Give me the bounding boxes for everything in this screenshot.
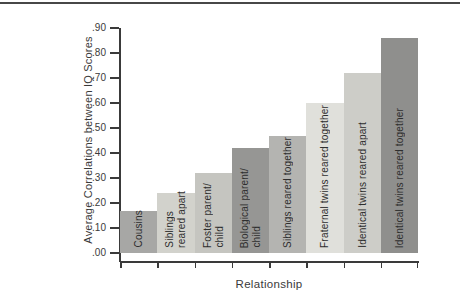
x-tick	[417, 261, 419, 268]
bar-label: Fraternal twins reared together	[306, 105, 343, 248]
iq-correlation-bar-chart: Average Correlations between IQ Scores .…	[0, 0, 460, 301]
x-tick	[232, 261, 234, 268]
y-tick	[110, 52, 119, 54]
bar-6: Fraternal twins reared together	[306, 103, 343, 253]
bar-label-line: Siblings	[164, 211, 175, 248]
y-tick-label: .10	[66, 222, 106, 234]
bar-label-line: Identical twins reared apart	[357, 122, 368, 248]
y-tick-label: .40	[66, 147, 106, 159]
bar-label: Foster parent/child	[195, 183, 232, 248]
y-tick	[110, 77, 119, 79]
x-tick	[381, 261, 383, 268]
y-tick-label: .50	[66, 122, 106, 134]
bar-label-line: Fraternal twins reared together	[319, 105, 330, 248]
y-tick-label: .90	[66, 22, 106, 34]
bar-label-line: Identical twins reared together	[394, 108, 405, 248]
x-axis-ticks	[120, 261, 418, 268]
bar-label-line: reared apart	[176, 191, 187, 248]
plot-area: CousinsSiblingsreared apartFoster parent…	[120, 28, 418, 253]
bar-1: Cousins	[120, 211, 157, 254]
y-axis-ticks: .00.10.20.30.40.50.60.70.80.90	[0, 28, 120, 253]
y-tick	[110, 177, 119, 179]
y-tick	[110, 127, 119, 129]
y-tick	[110, 152, 119, 154]
y-tick	[110, 252, 119, 254]
bar-7: Identical twins reared apart	[344, 73, 381, 253]
bar-label-line: Foster parent/	[202, 183, 213, 248]
bar-label-line: Cousins	[133, 210, 144, 248]
x-tick	[157, 261, 159, 268]
bar-label-line: Biological parent/	[239, 168, 250, 248]
bar-label: Siblings reared together	[269, 137, 306, 248]
bar-8: Identical twins reared together	[381, 38, 418, 253]
bar-label-line: child	[214, 226, 225, 248]
y-tick-label: .60	[66, 97, 106, 109]
bar-label: Cousins	[120, 210, 157, 248]
bar-label: Siblingsreared apart	[157, 191, 194, 248]
x-tick	[306, 261, 308, 268]
bar-3: Foster parent/child	[195, 173, 232, 253]
x-tick	[195, 261, 197, 268]
y-tick	[110, 227, 119, 229]
y-tick-label: .20	[66, 197, 106, 209]
y-tick	[110, 27, 119, 29]
bar-label: Identical twins reared together	[381, 108, 418, 248]
y-tick-label: .80	[66, 47, 106, 59]
bar-label-line: Siblings reared together	[282, 137, 293, 248]
bar-4: Biological parent/child	[232, 148, 269, 253]
x-tick	[269, 261, 271, 268]
x-tick	[344, 261, 346, 268]
y-tick	[110, 102, 119, 104]
bar-5: Siblings reared together	[269, 136, 306, 254]
y-tick-label: .70	[66, 72, 106, 84]
x-axis-title: Relationship	[120, 278, 418, 290]
bar-label: Biological parent/child	[232, 168, 269, 248]
bar-label-line: child	[251, 226, 262, 248]
y-tick-label: .30	[66, 172, 106, 184]
y-tick	[110, 202, 119, 204]
bar-2: Siblingsreared apart	[157, 193, 194, 253]
bar-label: Identical twins reared apart	[344, 122, 381, 248]
y-tick-label: .00	[66, 247, 106, 259]
x-tick	[120, 261, 122, 268]
top-border-rule	[0, 2, 460, 4]
